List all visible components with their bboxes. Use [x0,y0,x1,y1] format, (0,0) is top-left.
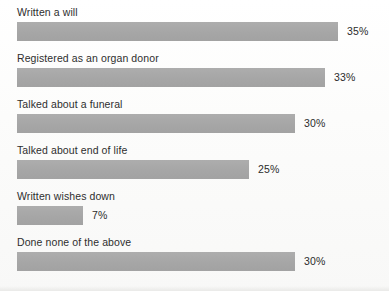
bar-fill [17,252,295,271]
bar-category-label: Done none of the above [17,236,131,249]
bar-track: 7% [17,206,389,225]
bar-track: 25% [17,160,389,179]
bar-value-label: 30% [304,255,326,268]
horizontal-bar-chart: Written a will 35% Registered as an orga… [0,0,389,291]
bar-category-label: Written wishes down [17,190,115,203]
bar-rows: Written a will 35% Registered as an orga… [0,6,389,282]
bar-value-label: 33% [334,71,356,84]
bar-category-label: Written a will [17,6,78,19]
bar-category-label: Registered as an organ donor [17,52,159,65]
bar-value-label: 25% [258,163,280,176]
bar-row: Done none of the above 30% [0,236,389,282]
bar-fill [17,22,338,41]
bar-row: Written wishes down 7% [0,190,389,236]
bar-category-label: Talked about a funeral [17,98,123,111]
bar-track: 30% [17,252,389,271]
bar-fill [17,114,295,133]
bar-fill [17,206,83,225]
bar-row: Written a will 35% [0,6,389,52]
bar-track: 35% [17,22,389,41]
bar-value-label: 7% [92,209,108,222]
bar-track: 33% [17,68,389,87]
bar-fill [17,160,249,179]
bar-fill [17,68,325,87]
bar-category-label: Talked about end of life [17,144,127,157]
bar-value-label: 30% [304,117,326,130]
bar-row: Talked about end of life 25% [0,144,389,190]
page-edge-shading [0,286,389,291]
bar-track: 30% [17,114,389,133]
bar-row: Registered as an organ donor 33% [0,52,389,98]
bar-row: Talked about a funeral 30% [0,98,389,144]
bar-value-label: 35% [347,25,369,38]
